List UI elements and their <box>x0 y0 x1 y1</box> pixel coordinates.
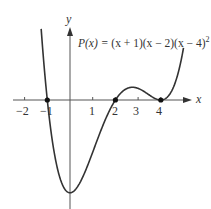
tick-label-3: 3 <box>133 105 139 117</box>
root-point <box>113 97 118 102</box>
formula-exponent: 2 <box>206 35 210 44</box>
tick-label-4: 4 <box>156 105 162 117</box>
tick-label-2: 2 <box>112 105 118 117</box>
tick-label-neg1: −1 <box>40 105 53 117</box>
y-axis-label: y <box>66 13 71 25</box>
tick-label-1: 1 <box>89 105 95 117</box>
function-formula: P(x) = (x + 1)(x − 2)(x − 4)2 <box>78 36 210 49</box>
plot-area <box>0 0 211 209</box>
tick-label-neg2: −2 <box>16 105 29 117</box>
polynomial-graph: y x P(x) = (x + 1)(x − 2)(x − 4)2 −2 −1 … <box>0 0 211 209</box>
root-point <box>158 97 163 102</box>
formula-lhs: P(x) = <box>78 37 111 49</box>
formula-body: (x + 1)(x − 2)(x − 4) <box>111 37 205 49</box>
x-axis-arrow-icon <box>183 97 192 103</box>
x-axis-label: x <box>196 93 201 105</box>
y-axis-arrow-icon <box>67 27 73 36</box>
root-point <box>45 97 50 102</box>
